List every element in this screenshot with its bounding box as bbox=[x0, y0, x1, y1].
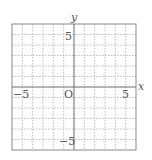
tick-label-y-neg5: −5 bbox=[59, 135, 75, 148]
tick-label-x-5: 5 bbox=[122, 88, 129, 101]
y-axis-label: y bbox=[70, 11, 78, 24]
tick-label-x-neg5: −5 bbox=[13, 88, 29, 101]
origin-label: O bbox=[64, 88, 73, 101]
coordinate-grid: y x O 5 −5 −5 5 bbox=[0, 0, 152, 160]
tick-label-y-5: 5 bbox=[65, 30, 72, 43]
x-axis-label: x bbox=[138, 80, 145, 93]
